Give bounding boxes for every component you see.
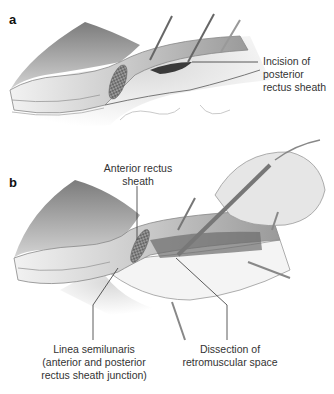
label-incision-posterior-rectus-sheath: Incision of posterior rectus sheath bbox=[263, 55, 326, 94]
label-dissection-retromuscular-space: Dissection of retromuscular space bbox=[180, 343, 280, 369]
panel-letter-b: b bbox=[9, 175, 17, 190]
panel-letter-a: a bbox=[9, 12, 16, 27]
label-anterior-rectus-sheath: Anterior rectus sheath bbox=[98, 162, 178, 188]
label-linea-semilunaris: Linea semilunaris (anterior and posterio… bbox=[38, 343, 150, 382]
panel-a-drawing bbox=[10, 14, 270, 130]
